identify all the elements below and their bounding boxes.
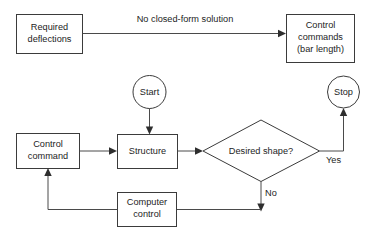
- required-deflections-label-line2: deflections: [28, 34, 72, 44]
- node-control-commands: Control commands (bar length): [287, 15, 355, 63]
- node-structure: Structure: [118, 135, 178, 169]
- control-commands-label-line3: (bar length): [297, 44, 344, 54]
- edge-control-command-to-structure: [80, 147, 118, 154]
- control-command-label-line1: Control: [33, 139, 63, 149]
- node-stop: Stop: [328, 76, 360, 108]
- arrow-head-to-decision: [195, 147, 203, 154]
- arrow-head-to-stop: [340, 108, 347, 116]
- arrow-head-to-control-command: [44, 168, 51, 176]
- edge-required-to-control-commands: No closed-form solution: [83, 14, 287, 37]
- node-computer-control: Computer control: [118, 193, 177, 227]
- arrow-head-no-junction: [257, 204, 264, 212]
- node-desired-shape-decision: Desired shape?: [203, 120, 320, 182]
- node-control-command: Control command: [17, 134, 80, 169]
- edge-no-branch: No: [257, 182, 276, 212]
- edge-label-no-closed-form: No closed-form solution: [137, 14, 234, 24]
- control-command-label-line2: command: [28, 151, 68, 161]
- edge-label-yes: Yes: [326, 155, 341, 165]
- control-commands-label-line1: Control: [306, 20, 336, 30]
- stop-label: Stop: [334, 87, 353, 97]
- arrow-head-to-control-commands: [278, 30, 286, 37]
- diagram-canvas: Required deflections No closed-form solu…: [0, 0, 376, 238]
- edge-line-feedback-loop: [48, 173, 118, 210]
- arrow-head-to-structure-top: [146, 127, 153, 135]
- edge-line-yes-stop: [320, 113, 344, 151]
- arrow-head-to-structure-left: [109, 147, 117, 154]
- required-deflections-label-line1: Required: [31, 22, 68, 32]
- edge-structure-to-decision: [178, 147, 204, 154]
- computer-control-label-line1: Computer: [127, 197, 167, 207]
- desired-shape-label: Desired shape?: [229, 146, 293, 156]
- structure-label: Structure: [129, 146, 166, 156]
- flow-diagram: Required deflections No closed-form solu…: [0, 0, 376, 238]
- computer-control-label-line2: control: [133, 209, 161, 219]
- start-label: Start: [140, 87, 160, 97]
- edge-label-no: No: [265, 188, 277, 198]
- edge-yes-to-stop: Yes: [320, 108, 348, 165]
- edge-feedback-to-control-command: [44, 168, 117, 210]
- control-commands-label-line2: commands: [298, 32, 343, 42]
- edge-start-to-structure: [146, 109, 153, 135]
- node-required-deflections: Required deflections: [17, 15, 83, 54]
- node-start: Start: [133, 76, 166, 109]
